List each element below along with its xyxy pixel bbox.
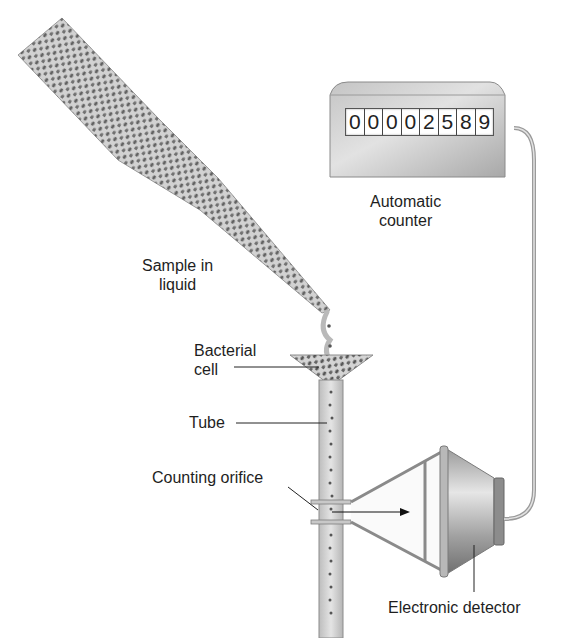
- sample-label: Sample in liquid: [142, 256, 213, 294]
- counter-digit: 0: [346, 109, 365, 135]
- diagram-artwork: [0, 0, 585, 638]
- tube-label: Tube: [189, 413, 225, 432]
- cable: [504, 128, 534, 519]
- electronic-detector: [332, 446, 504, 577]
- electronic-detector-label: Electronic detector: [388, 598, 521, 617]
- sample-pipette: [18, 18, 332, 362]
- counter-digit: 0: [402, 109, 421, 135]
- bacterial-cell-label: Bacterial cell: [194, 341, 256, 379]
- counter-digit: 5: [439, 109, 458, 135]
- counter-display: 0 0 0 0 2 5 8 9: [345, 108, 494, 136]
- counter-digit: 0: [383, 109, 402, 135]
- counting-orifice-label: Counting orifice: [152, 468, 263, 487]
- counter-digit: 8: [457, 109, 476, 135]
- counter-digit: 9: [476, 109, 494, 135]
- automatic-counter-label: Automatic counter: [370, 192, 441, 230]
- counter-digit: 0: [365, 109, 384, 135]
- counter-digit: 2: [420, 109, 439, 135]
